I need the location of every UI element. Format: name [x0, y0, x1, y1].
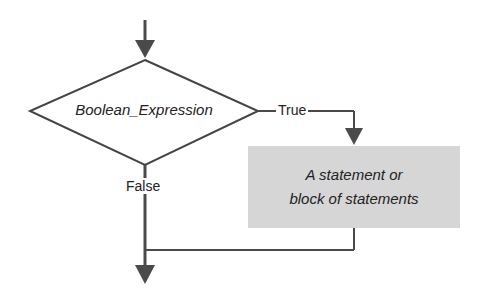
process-label-line1: A statement or [306, 163, 403, 187]
merge-path [145, 228, 354, 250]
flowchart-canvas: Boolean_Expression True False A statemen… [0, 0, 477, 301]
decision-label: Boolean_Expression [30, 101, 258, 118]
process-label-line2: block of statements [289, 187, 418, 211]
true-branch-label: True [276, 102, 308, 118]
false-branch-label: False [124, 178, 162, 194]
process-box: A statement or block of statements [248, 146, 460, 228]
true-path [258, 111, 363, 145]
entry-arrow [135, 20, 155, 58]
